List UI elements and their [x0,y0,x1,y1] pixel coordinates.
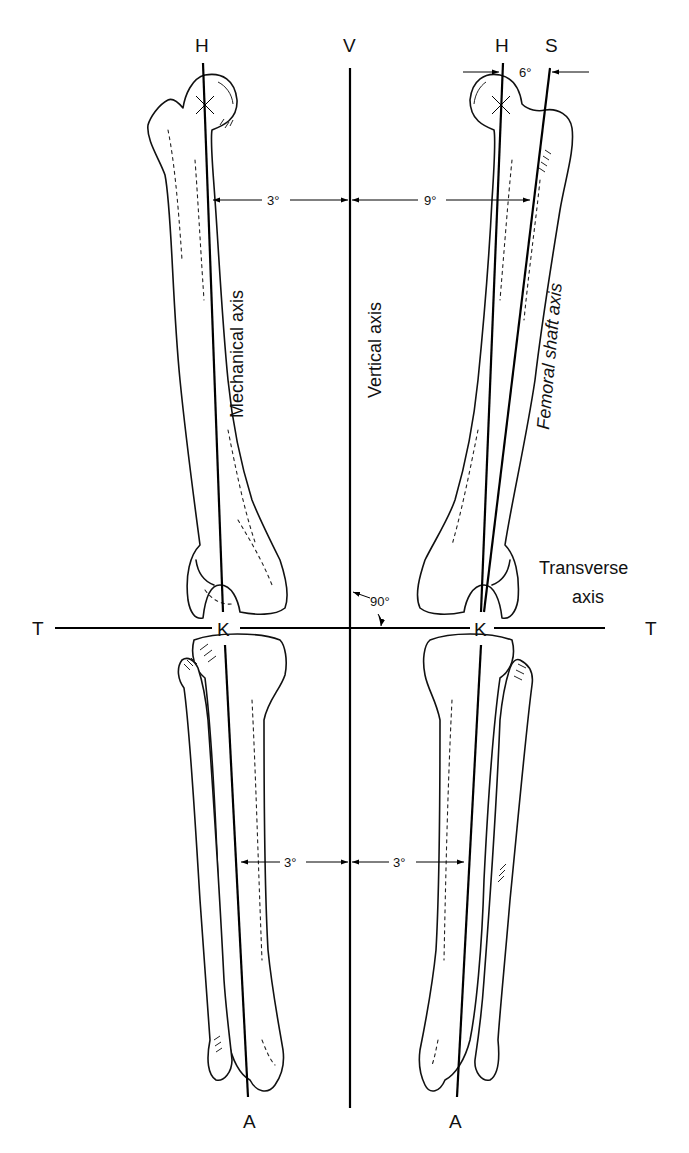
diagram-canvas: H V H S T T K K A A Mechanical axis Vert… [0,0,689,1153]
label-angle-90: 90° [370,594,390,609]
label-H-right: H [495,35,509,56]
label-V: V [343,35,356,56]
label-angle-3-upper: 3° [267,193,279,208]
label-K-right: K [474,619,487,640]
right-leg [417,74,572,1091]
label-A-right: A [449,1111,462,1132]
arrow-90deg-upper [353,592,370,598]
label-angle-6-head: 6° [519,65,531,80]
label-H-left: H [195,35,209,56]
label-S: S [545,35,558,56]
left-femur [148,74,287,618]
knee-alignment-diagram: H V H S T T K K A A Mechanical axis Vert… [0,0,689,1153]
arrow-90deg-lower [378,614,381,626]
label-K-left: K [217,619,230,640]
label-angle-9-upper: 9° [424,193,436,208]
label-transverse-axis-line1: Transverse [539,558,628,578]
label-angle-3-lower-right: 3° [393,855,405,870]
label-transverse-axis-line2: axis [572,587,604,607]
hip-center-markers [196,96,510,114]
left-leg [148,74,287,1091]
label-vertical-axis: Vertical axis [365,302,385,398]
label-T-left: T [32,618,44,639]
label-mechanical-axis: Mechanical axis [227,290,247,418]
label-A-left: A [243,1111,256,1132]
label-T-right: T [645,618,657,639]
label-angle-3-lower-left: 3° [284,855,296,870]
